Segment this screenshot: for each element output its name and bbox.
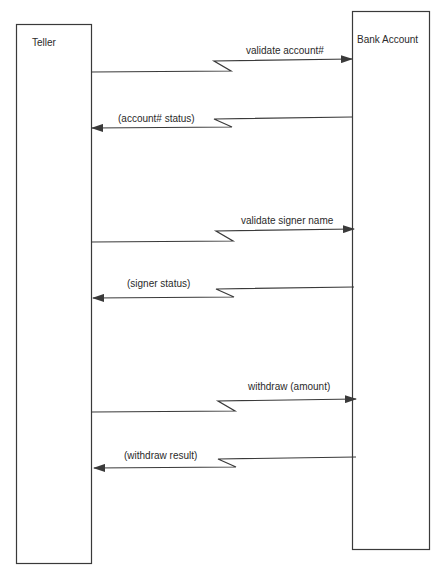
participant-label-teller: Teller xyxy=(32,37,56,48)
message-label-withdraw-result: (withdraw result) xyxy=(124,450,197,461)
message-label-withdraw: withdraw (amount) xyxy=(248,381,330,392)
teller-lifeline-box xyxy=(17,25,92,564)
participant-label-bank-account: Bank Account xyxy=(357,34,418,45)
message-label-signer-status: (signer status) xyxy=(127,278,190,289)
message-label-validate-signer: validate signer name xyxy=(241,215,333,226)
bank-account-lifeline-box xyxy=(353,12,430,550)
message-label-validate-account: validate account# xyxy=(246,45,324,56)
message-arrow-validate-signer xyxy=(91,229,354,242)
sequence-diagram xyxy=(0,0,445,578)
message-arrow-validate-account xyxy=(91,59,352,72)
message-arrow-withdraw xyxy=(92,399,356,412)
message-label-account-status: (account# status) xyxy=(118,113,195,124)
